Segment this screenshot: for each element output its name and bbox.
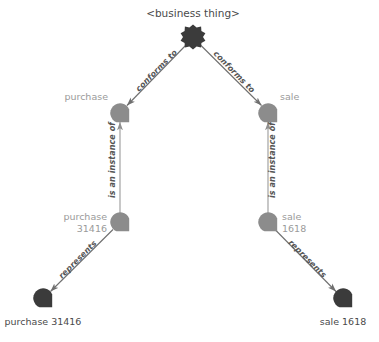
- node-label-sale-1618-real: sale 1618: [320, 316, 366, 327]
- edge-line: [200, 45, 262, 106]
- node-business-thing[interactable]: <business thing>: [146, 7, 240, 50]
- node-label-purchase-31416-line1: purchase: [63, 211, 107, 222]
- edge-label-instance-of-right: is an instance of: [268, 121, 277, 198]
- edge-label-conforms-to-left: conforms to: [134, 47, 179, 93]
- node-purchase-31416-real[interactable]: purchase 31416: [5, 288, 82, 327]
- node-label-sale-1618-line2: 1618: [282, 223, 306, 234]
- node-purchase[interactable]: purchase: [64, 91, 129, 122]
- circle-notch-shape: [258, 212, 277, 231]
- edge-sale-conforms-to-root: conforms to: [200, 45, 262, 106]
- node-purchase-31416-instance[interactable]: purchase 31416: [63, 211, 129, 234]
- edge-label-conforms-to-right: conforms to: [212, 49, 257, 95]
- concept-instance-diagram: conforms to conforms to is an instance o…: [0, 0, 379, 342]
- circle-notch-shape: [110, 103, 129, 122]
- node-label-purchase-31416-real: purchase 31416: [5, 316, 82, 327]
- node-label-sale-1618-line1: sale: [282, 211, 301, 222]
- node-label-purchase-31416-line2: 31416: [77, 223, 107, 234]
- circle-notch-shape: [33, 288, 52, 307]
- circle-notch-shape: [110, 212, 129, 231]
- node-sale[interactable]: sale: [258, 91, 299, 122]
- edge-label-represents-right: represents: [287, 238, 329, 280]
- edge-purchase31416-instance-of-purchase: is an instance of: [108, 121, 120, 213]
- node-label-business-thing: <business thing>: [146, 7, 240, 19]
- edge-purchase-conforms-to-root: conforms to: [127, 45, 187, 106]
- node-sale-1618-instance[interactable]: sale 1618: [258, 211, 306, 234]
- node-sale-1618-real[interactable]: sale 1618: [320, 288, 366, 327]
- edge-sale1618-represents-real: represents: [275, 230, 336, 292]
- node-label-purchase: purchase: [64, 91, 108, 102]
- edge-purchase31416-represents-real: represents: [51, 230, 114, 292]
- edge-label-represents-left: represents: [57, 239, 99, 281]
- edge-label-instance-of-left: is an instance of: [108, 121, 117, 198]
- circle-notch-shape: [258, 103, 277, 122]
- node-label-sale: sale: [280, 91, 299, 102]
- edge-sale1618-instance-of-sale: is an instance of: [268, 121, 277, 213]
